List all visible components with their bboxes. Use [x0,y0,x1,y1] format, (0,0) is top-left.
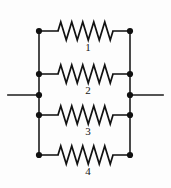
node-right-1 [127,28,133,34]
circuit-canvas: 1234 [0,0,171,188]
zigzag-body [58,146,113,164]
resistor-label-3: 3 [85,125,91,137]
node-left-4 [36,152,42,158]
parallel-resistor-circuit-diagram: 1234 [0,0,171,188]
resistor-label-2: 2 [85,84,91,96]
resistor-label-1: 1 [85,41,91,53]
resistor-1 [39,22,130,40]
node-right-4 [127,152,133,158]
node-right-2 [127,71,133,77]
node-left-1 [36,28,42,34]
resistor-3 [39,106,130,124]
node-left-2 [36,71,42,77]
node-right-3 [127,112,133,118]
zigzag-body [58,65,113,83]
node-left-terminal [36,92,42,98]
resistor-2 [39,65,130,83]
zigzag-body [58,106,113,124]
node-right-terminal [127,92,133,98]
resistor-label-4: 4 [85,165,91,177]
zigzag-body [58,22,113,40]
node-left-3 [36,112,42,118]
resistor-4 [39,146,130,164]
